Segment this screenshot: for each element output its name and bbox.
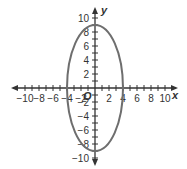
y-axis-label: y bbox=[100, 4, 108, 16]
x-tick-label: −8 bbox=[33, 93, 45, 104]
y-tick-label: 6 bbox=[83, 41, 89, 52]
x-tick-label: 2 bbox=[106, 93, 112, 104]
x-tick-label: 6 bbox=[134, 93, 140, 104]
y-tick-label: 10 bbox=[78, 13, 90, 24]
y-tick-label: −4 bbox=[78, 111, 90, 122]
x-axis-left-arrow-icon bbox=[11, 85, 18, 91]
y-tick-label: −10 bbox=[72, 153, 89, 164]
coordinate-plane: −10−8−6−4−2246810 x 108642−2−4−6−8−10 y … bbox=[0, 0, 187, 169]
y-axis-up-arrow-icon bbox=[92, 7, 98, 14]
origin-label: O bbox=[83, 90, 92, 102]
y-tick-label: 4 bbox=[83, 55, 89, 66]
y-tick-label: −6 bbox=[78, 125, 90, 136]
x-tick-label: 10 bbox=[159, 93, 171, 104]
x-tick-label: −6 bbox=[47, 93, 59, 104]
y-tick-label: 2 bbox=[83, 69, 89, 80]
x-tick-label: 8 bbox=[148, 93, 154, 104]
x-tick-label: −10 bbox=[17, 93, 34, 104]
x-axis-label: x bbox=[171, 89, 179, 101]
y-axis-down-arrow-icon bbox=[92, 159, 98, 166]
